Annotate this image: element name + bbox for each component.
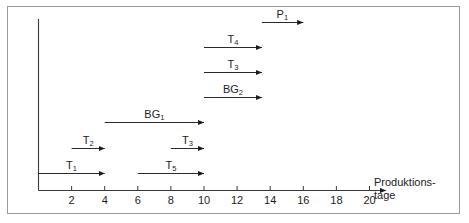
x-axis-tick-label: 2 <box>60 194 84 206</box>
x-axis-tick-label: 10 <box>192 194 216 206</box>
x-axis-tick-label: 12 <box>225 194 249 206</box>
task-label: T1 <box>66 159 77 171</box>
task-label: P1 <box>277 8 289 20</box>
x-axis-title-line2: tage <box>374 189 436 202</box>
diagram-screenshot: 2468101214161820P1T4T3BG2BG1T2T3T1T5 Pro… <box>0 0 469 223</box>
x-axis-tick-label: 8 <box>159 194 183 206</box>
gantt-geometry <box>39 19 387 191</box>
task-label: T3 <box>182 134 193 146</box>
task-label: BG1 <box>144 108 164 120</box>
x-axis-tick-label: 14 <box>258 194 282 206</box>
x-axis-title-line1: Produktions- <box>374 176 436 189</box>
task-label: T4 <box>227 33 238 45</box>
x-axis-tick-label: 4 <box>93 194 117 206</box>
x-axis-tick-label: 6 <box>126 194 150 206</box>
task-label: T3 <box>227 58 238 70</box>
x-axis-title: Produktions- tage <box>374 176 436 201</box>
task-label: T5 <box>165 159 176 171</box>
task-label: BG2 <box>223 83 243 95</box>
x-axis-tick-label: 18 <box>324 194 348 206</box>
x-axis-tick-label: 16 <box>291 194 315 206</box>
task-label: T2 <box>83 134 94 146</box>
